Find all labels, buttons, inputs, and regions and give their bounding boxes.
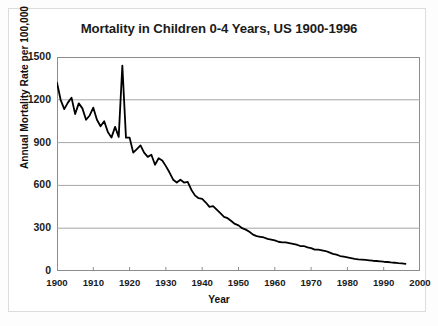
chart-figure: Mortality in Children 0-4 Years, US 1900… bbox=[0, 0, 438, 326]
plot-wrapper bbox=[57, 57, 420, 271]
x-axis-tick-labels: 1900191019201930194019501960197019801990… bbox=[0, 277, 438, 293]
gridlines bbox=[57, 100, 420, 271]
mortality-line-series bbox=[57, 57, 420, 271]
x-tick-label: 2000 bbox=[398, 277, 438, 288]
x-axis-label: Year bbox=[0, 294, 438, 305]
chart-title: Mortality in Children 0-4 Years, US 1900… bbox=[0, 21, 438, 36]
data-line bbox=[57, 66, 405, 264]
y-tick-label: 300 bbox=[5, 221, 51, 233]
y-tick-label: 0 bbox=[5, 264, 51, 276]
y-axis-label: Annual Mortality Rate per 100,000 bbox=[19, 0, 30, 188]
